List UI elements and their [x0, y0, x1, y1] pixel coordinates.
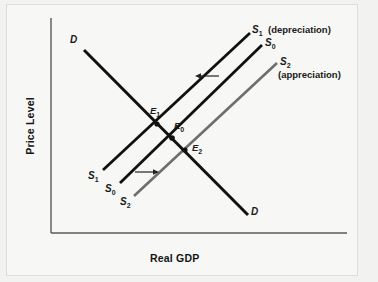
supply-label-s0-bottom: S0 — [105, 184, 116, 196]
supply-label-s0-top: S0 — [265, 38, 276, 50]
equilibrium-label-e0: E0 — [174, 121, 184, 133]
supply-curve-s2 — [134, 63, 277, 196]
supply-s1-letter-bottom: S — [88, 170, 95, 181]
supply-s2-sub-bottom: 2 — [127, 202, 131, 209]
equilibrium-dot-e1 — [154, 121, 159, 126]
demand-label-bottom: D — [251, 207, 258, 217]
appreciation-annotation: (appreciation) — [278, 70, 341, 80]
supply-curve-s1 — [103, 33, 250, 170]
depreciation-annotation: (depreciation) — [268, 25, 331, 35]
equilibrium-label-e2: E2 — [192, 143, 202, 155]
e1-sub: 1 — [156, 111, 160, 118]
equilibrium-dot-e0 — [169, 135, 175, 141]
supply-s1-letter: S — [252, 24, 259, 35]
shift-arrow-right-appreciation — [135, 169, 159, 175]
supply-label-s2-top: S2 — [280, 57, 291, 69]
supply-s0-letter: S — [265, 37, 272, 48]
supply-s1-sub-bottom: 1 — [95, 176, 99, 183]
x-axis-title: Real GDP — [150, 252, 199, 264]
figure-root: D D S1 (depreciation) S0 S2 (appreciatio… — [0, 0, 378, 282]
supply-s1-sub: 1 — [259, 30, 263, 37]
supply-s2-letter-bottom: S — [120, 196, 127, 207]
y-axis-title: Price Level — [24, 86, 36, 166]
supply-curve-s0 — [120, 45, 262, 183]
supply-label-s2-bottom: S2 — [120, 197, 131, 209]
equilibrium-dot-e2 — [182, 147, 187, 152]
demand-label-top: D — [70, 35, 77, 45]
supply-s0-letter-bottom: S — [105, 183, 112, 194]
supply-s0-sub-bottom: 0 — [112, 189, 116, 196]
e0-sub: 0 — [180, 126, 184, 133]
supply-s2-letter: S — [280, 56, 287, 67]
equilibrium-label-e1: E1 — [150, 106, 160, 118]
e2-sub: 2 — [198, 148, 202, 155]
supply-label-s1-bottom: S1 — [88, 171, 99, 183]
supply-s2-sub: 2 — [287, 62, 291, 69]
supply-label-s1-top: S1 — [252, 25, 263, 37]
supply-s0-sub: 0 — [272, 43, 276, 50]
plot-canvas — [0, 0, 378, 282]
